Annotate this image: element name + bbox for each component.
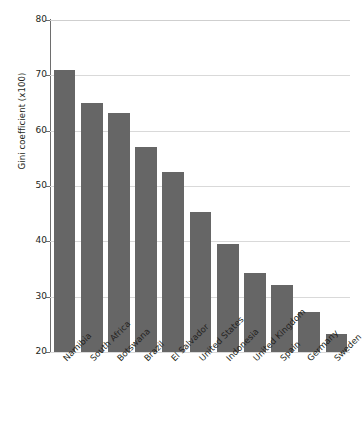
bar-namibia xyxy=(54,70,76,352)
y-tick-label-80: 80 xyxy=(21,15,47,24)
bar-south-africa xyxy=(81,103,103,352)
bar-brazil xyxy=(135,147,157,352)
y-tick-label-30: 30 xyxy=(21,292,47,301)
y-tick-label-20: 20 xyxy=(21,347,47,356)
x-axis-category-labels: NamibiaSouth AfricaBotswanaBrazilEl Salv… xyxy=(51,356,350,422)
bar-el-salvador xyxy=(162,172,184,352)
y-tick-label-60: 60 xyxy=(21,126,47,135)
y-tick-label-40: 40 xyxy=(21,236,47,245)
bars-group xyxy=(51,20,350,352)
y-tick-label-70: 70 xyxy=(21,70,47,79)
y-tick-label-50: 50 xyxy=(21,181,47,190)
bar-botswana xyxy=(108,113,130,352)
